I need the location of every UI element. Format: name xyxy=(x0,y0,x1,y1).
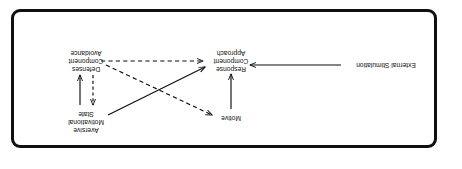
node-line: Defenses xyxy=(44,65,128,73)
figure-frame: Aversive Motivational State Defenses Com… xyxy=(11,9,437,148)
node-avoidance-component-defenses: Defenses Component Avoidance xyxy=(44,48,128,73)
node-line: Component xyxy=(192,57,270,65)
rotated-diagram-content: Aversive Motivational State Defenses Com… xyxy=(14,12,440,151)
node-motive: Motive xyxy=(202,114,260,122)
node-line: Aversive xyxy=(44,126,128,134)
node-line: Motive xyxy=(202,114,260,122)
node-line: External Stimulation xyxy=(346,61,426,69)
node-external-stimulation: External Stimulation xyxy=(346,61,426,69)
node-line: Approach xyxy=(192,48,270,56)
figure-page: Aversive Motivational State Defenses Com… xyxy=(0,0,462,169)
node-line: State xyxy=(44,109,128,117)
node-line: Motivational xyxy=(44,118,128,126)
node-line: Response xyxy=(192,65,270,73)
node-line: Avoidance xyxy=(44,48,128,56)
node-approach-component-response: Response Component Approach xyxy=(192,48,270,73)
edge-aversive-to-approach xyxy=(108,67,205,115)
node-aversive-motivational-state: Aversive Motivational State xyxy=(44,109,128,134)
node-line: Component xyxy=(44,57,128,65)
